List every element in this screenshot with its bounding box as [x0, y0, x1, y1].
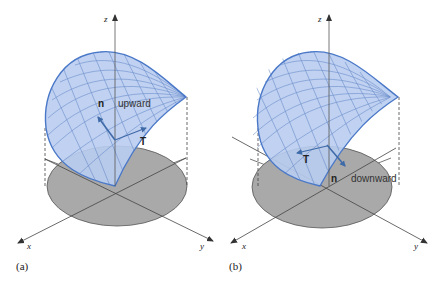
x-axis-label: x — [26, 241, 31, 251]
panel-label-a: (a) — [16, 260, 29, 273]
tangent-label: T — [140, 136, 146, 147]
panel-label-b: (b) — [229, 260, 242, 273]
x-axis-label: x — [241, 241, 246, 251]
orientation-label: upward — [118, 98, 151, 109]
panel-b: z x y n downward T (b) — [229, 14, 427, 273]
normal-label: n — [98, 98, 104, 109]
z-axis-label: z — [103, 14, 108, 24]
panel-a: z x y n upward T (a) — [16, 14, 213, 273]
z-axis-label: z — [317, 14, 322, 24]
normal-label: n — [331, 173, 337, 184]
orientation-label: downward — [351, 173, 397, 184]
y-axis-label: y — [413, 241, 418, 251]
figure-canvas: z x y n upward T (a) — [0, 0, 446, 286]
y-axis-label: y — [199, 241, 204, 251]
tangent-label: T — [303, 154, 309, 165]
